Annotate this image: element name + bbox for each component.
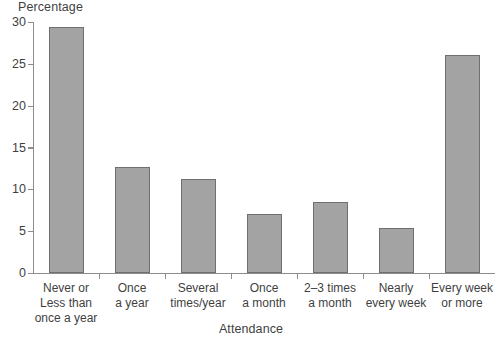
bar [181,179,216,273]
x-axis-title: Attendance [0,322,502,336]
bar [379,228,414,273]
bar [247,214,282,273]
bar [313,202,348,273]
plot-area: 051015202530Never or Less than once a ye… [0,0,502,345]
bar [445,55,480,273]
bar-chart: Percentage 051015202530Never or Less tha… [0,0,502,345]
bar [49,27,84,273]
x-category-label: Every week or more [422,281,502,311]
bar [115,167,150,273]
